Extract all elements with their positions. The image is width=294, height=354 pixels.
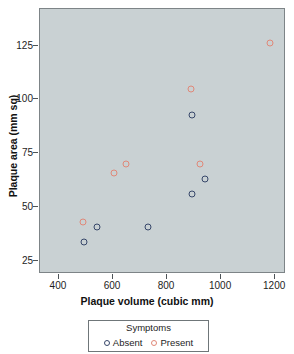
- x-tick-mark: [112, 274, 113, 279]
- legend-entry-absent[interactable]: Absent: [104, 337, 143, 348]
- data-point-absent: [189, 111, 196, 118]
- data-point-present: [197, 161, 204, 168]
- x-axis-title: Plaque volume (cubic mm): [0, 295, 294, 307]
- legend-entry-label: Absent: [113, 337, 143, 348]
- data-point-absent: [202, 176, 209, 183]
- x-tick-label: 400: [50, 280, 67, 291]
- x-tick-mark: [58, 274, 59, 279]
- legend-title: Symptoms: [89, 322, 208, 333]
- y-tick-mark: [33, 260, 38, 261]
- x-tick-label: 1200: [263, 280, 285, 291]
- x-tick-label: 800: [158, 280, 175, 291]
- y-tick-label: 75: [22, 147, 33, 158]
- data-point-present: [188, 85, 195, 92]
- x-tick-mark: [166, 274, 167, 279]
- y-tick-label: 25: [22, 255, 33, 266]
- data-point-absent: [81, 238, 88, 245]
- legend-entries: AbsentPresent: [89, 337, 208, 348]
- data-point-absent: [145, 223, 152, 230]
- y-tick-mark: [33, 98, 38, 99]
- legend-marker-circle-icon: [104, 340, 110, 346]
- scatter-plot-figure: 25507510012540060080010001200 Plaque are…: [0, 0, 294, 354]
- x-tick-label: 1000: [209, 280, 231, 291]
- data-point-present: [122, 161, 129, 168]
- data-point-present: [79, 219, 86, 226]
- legend-entry-present[interactable]: Present: [151, 337, 193, 348]
- y-tick-label: 125: [16, 39, 33, 50]
- x-tick-mark: [220, 274, 221, 279]
- y-tick-mark: [33, 152, 38, 153]
- legend-entry-label: Present: [160, 337, 193, 348]
- data-point-present: [267, 40, 274, 47]
- y-tick-label: 50: [22, 201, 33, 212]
- legend-box: Symptoms AbsentPresent: [88, 320, 209, 352]
- data-point-absent: [189, 191, 196, 198]
- legend-marker-circle-icon: [151, 340, 157, 346]
- x-tick-label: 600: [104, 280, 121, 291]
- data-point-present: [111, 169, 118, 176]
- y-tick-mark: [33, 206, 38, 207]
- data-point-absent: [94, 223, 101, 230]
- y-tick-mark: [33, 45, 38, 46]
- plot-panel: [39, 8, 285, 273]
- y-axis-title: Plaque area (mm sq): [7, 71, 19, 221]
- x-tick-mark: [274, 274, 275, 279]
